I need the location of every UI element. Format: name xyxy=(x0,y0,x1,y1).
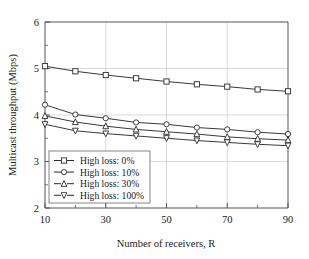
x-tick-label: 30 xyxy=(101,214,112,225)
data-point-0-7 xyxy=(255,87,260,92)
data-point-legend-0 xyxy=(61,158,66,163)
data-point-0-3 xyxy=(134,76,139,81)
y-tick-label: 6 xyxy=(34,17,39,28)
data-point-0-8 xyxy=(285,89,290,94)
data-point-1-7 xyxy=(255,130,260,135)
data-point-1-8 xyxy=(285,131,290,136)
y-axis-title: Multicast throughput (Mbps) xyxy=(7,54,19,176)
data-point-0-6 xyxy=(225,84,230,89)
x-axis-title: Number of receivers, R xyxy=(117,238,216,249)
x-tick-label: 50 xyxy=(161,214,172,225)
data-point-0-2 xyxy=(103,72,108,77)
data-point-0-1 xyxy=(73,69,78,74)
legend-label: High loss: 100% xyxy=(80,190,144,201)
x-tick-label: 70 xyxy=(222,214,233,225)
y-tick-label: 5 xyxy=(34,63,39,74)
chart-legend: High loss: 0%High loss: 10%High loss: 30… xyxy=(49,151,150,203)
x-tick-label: 10 xyxy=(40,214,51,225)
data-point-0-4 xyxy=(164,79,169,84)
y-tick-label: 4 xyxy=(34,110,40,121)
data-point-legend-1 xyxy=(61,170,66,175)
chart-figure: 1030507090 23456 High loss: 0%High loss:… xyxy=(0,0,309,259)
legend-label: High loss: 0% xyxy=(80,155,134,166)
y-tick-label: 2 xyxy=(34,203,39,214)
data-point-1-0 xyxy=(42,102,47,107)
multicast-throughput-line-chart: 1030507090 23456 High loss: 0%High loss:… xyxy=(0,0,309,259)
x-tick-label: 90 xyxy=(283,214,294,225)
data-point-1-4 xyxy=(164,122,169,127)
data-point-1-3 xyxy=(134,120,139,125)
data-point-1-6 xyxy=(225,127,230,132)
data-point-1-2 xyxy=(103,116,108,121)
data-point-1-5 xyxy=(194,125,199,130)
data-point-1-1 xyxy=(73,112,78,117)
data-point-0-0 xyxy=(42,64,47,69)
data-point-0-5 xyxy=(194,82,199,87)
legend-label: High loss: 10% xyxy=(80,167,139,178)
y-tick-label: 3 xyxy=(34,156,39,167)
legend-label: High loss: 30% xyxy=(80,178,139,189)
